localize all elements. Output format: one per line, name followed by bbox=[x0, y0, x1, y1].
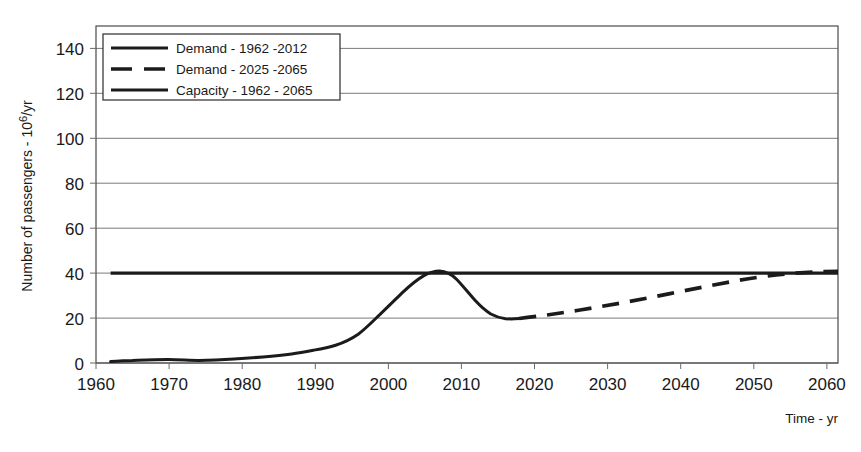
x-tick-label-8: 2040 bbox=[662, 375, 700, 394]
x-axis-title: Time - yr bbox=[785, 411, 838, 426]
legend-label-capacity: Capacity - 1962 - 2065 bbox=[176, 83, 313, 98]
y-tick-label-4: 80 bbox=[65, 175, 84, 194]
x-tick-label-7: 2030 bbox=[589, 375, 627, 394]
y-tick-label-6: 120 bbox=[56, 85, 84, 104]
x-tick-label-10: 2060 bbox=[808, 375, 846, 394]
x-tick-label-3: 1990 bbox=[296, 375, 334, 394]
x-tick-label-4: 2000 bbox=[369, 375, 407, 394]
legend-label-demand-historic: Demand - 1962 -2012 bbox=[176, 41, 307, 56]
x-tick-label-6: 2020 bbox=[516, 375, 554, 394]
y-axis-title-text: Number of passengers - 106/yr bbox=[17, 100, 35, 292]
y-axis-title-tail: /yr bbox=[19, 100, 35, 116]
y-tick-label-7: 140 bbox=[56, 40, 84, 59]
x-tick-label-1: 1970 bbox=[150, 375, 188, 394]
y-tick-label-2: 40 bbox=[65, 265, 84, 284]
y-tick-label-5: 100 bbox=[56, 130, 84, 149]
chart-legend: Demand - 1962 -2012 Demand - 2025 -2065 … bbox=[103, 34, 340, 100]
x-tick-label-0: 1960 bbox=[77, 375, 115, 394]
y-axis-title: Number of passengers - 106/yr bbox=[17, 100, 35, 292]
y-tick-label-3: 60 bbox=[65, 220, 84, 239]
y-tick-label-1: 20 bbox=[65, 310, 84, 329]
y-tick-label-0: 0 bbox=[75, 355, 84, 374]
chart-figure: 1960 1970 1980 1990 2000 2010 2020 2030 … bbox=[0, 0, 861, 452]
legend-label-demand-forecast: Demand - 2025 -2065 bbox=[176, 62, 307, 77]
y-axis-title-main: Number of passengers - 10 bbox=[19, 122, 35, 292]
x-tick-label-2: 1980 bbox=[223, 375, 261, 394]
x-tick-label-9: 2050 bbox=[735, 375, 773, 394]
x-tick-label-5: 2010 bbox=[442, 375, 480, 394]
